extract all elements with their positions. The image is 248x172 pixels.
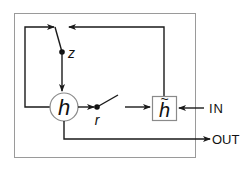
output-label: OUT (212, 132, 240, 147)
switch-z-blade (55, 27, 62, 52)
gru-diagram: z h r h ~ IN OUT (0, 0, 248, 172)
node-h-tilde-accent: ~ (160, 91, 168, 107)
switch-r-blade (97, 95, 118, 107)
outer-frame (15, 14, 196, 158)
switch-z-label: z (67, 45, 75, 61)
switch-r-label: r (95, 112, 101, 128)
candidate-line-top (69, 27, 164, 96)
feedback-line-left (25, 27, 54, 107)
input-label: IN (209, 101, 224, 116)
output-line (64, 121, 210, 139)
node-h-label: h (58, 95, 70, 120)
